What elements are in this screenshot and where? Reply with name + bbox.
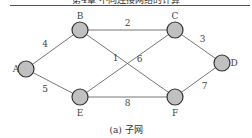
edge-f-d <box>175 63 222 97</box>
edge-a-b <box>26 30 80 69</box>
node-label: F <box>172 108 178 118</box>
node-label: B <box>77 11 84 21</box>
edge-c-d <box>175 30 222 63</box>
edge-a-e <box>26 69 80 97</box>
graph-diagram: 45261837 ABCDEF <box>0 0 252 138</box>
node-d <box>214 55 230 71</box>
node-label: E <box>77 108 84 118</box>
edge-weight: 8 <box>125 98 131 108</box>
edge-weight: 1 <box>113 53 119 63</box>
edge-weight: 5 <box>42 84 48 94</box>
node-f <box>167 89 183 105</box>
edge-weight: 7 <box>202 81 208 91</box>
edge-weight: 2 <box>125 18 131 28</box>
node-b <box>72 22 88 38</box>
edge-weight: 6 <box>137 54 143 64</box>
nodes <box>18 22 230 105</box>
node-label: C <box>172 11 179 21</box>
node-e <box>72 89 88 105</box>
edge-weight: 4 <box>42 39 48 49</box>
edges <box>26 30 222 97</box>
node-c <box>167 22 183 38</box>
edge-weight: 3 <box>200 34 206 44</box>
figure-caption: (a) 子网 <box>0 123 252 136</box>
node-label: D <box>230 58 237 68</box>
node-a <box>18 61 34 77</box>
node-label: A <box>12 64 20 74</box>
